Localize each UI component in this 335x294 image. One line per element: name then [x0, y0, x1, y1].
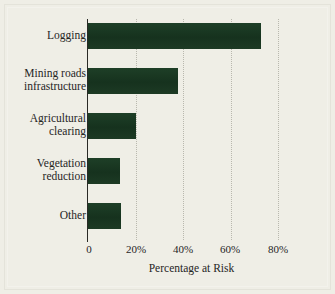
- gridline-20: [136, 19, 137, 240]
- category-label-other: Other: [0, 209, 86, 222]
- bar-row-vegetation-reduction: [88, 158, 120, 184]
- category-label-line: Other: [0, 209, 86, 222]
- bar-row-other: [88, 203, 121, 229]
- bar-chart-figure: Logging Mining roads infrastructure Agri…: [0, 0, 335, 294]
- category-label-agricultural-clearing: Agricultural clearing: [0, 112, 86, 138]
- category-label-vegetation-reduction: Vegetation reduction: [0, 157, 86, 183]
- category-label-line: clearing: [0, 125, 86, 138]
- x-axis-title: Percentage at Risk: [0, 262, 335, 274]
- bar-row-mining-roads-infrastructure: [88, 68, 178, 94]
- x-axis-title-text: Percentage at Risk: [149, 262, 235, 274]
- xtick-label-20: 20%: [126, 243, 146, 255]
- gridline-40: [183, 19, 184, 240]
- category-label-mining-roads-infrastructure: Mining roads infrastructure: [0, 67, 86, 93]
- gridline-60: [231, 19, 232, 240]
- y-axis-line: [87, 19, 88, 242]
- bar-row-logging: [88, 23, 261, 49]
- bar-logging: [88, 23, 261, 49]
- bar-row-agricultural-clearing: [88, 113, 136, 139]
- category-label-line: Logging: [0, 29, 86, 42]
- plot-area: [88, 19, 278, 240]
- gridline-80: [278, 19, 279, 240]
- category-label-line: infrastructure: [0, 80, 86, 93]
- xtick-label-80: 80%: [268, 243, 288, 255]
- bar-vegetation-reduction: [88, 158, 120, 184]
- category-label-line: reduction: [0, 170, 86, 183]
- xtick-label-60: 60%: [220, 243, 240, 255]
- bar-other: [88, 203, 121, 229]
- category-label-logging: Logging: [0, 29, 86, 42]
- category-label-line: Agricultural: [0, 112, 86, 125]
- xtick-label-40: 40%: [173, 243, 193, 255]
- bar-agricultural-clearing: [88, 113, 136, 139]
- bar-mining-roads-infrastructure: [88, 68, 178, 94]
- xtick-label-0: 0: [86, 243, 92, 255]
- category-label-line: Mining roads: [0, 67, 86, 80]
- category-label-line: Vegetation: [0, 157, 86, 170]
